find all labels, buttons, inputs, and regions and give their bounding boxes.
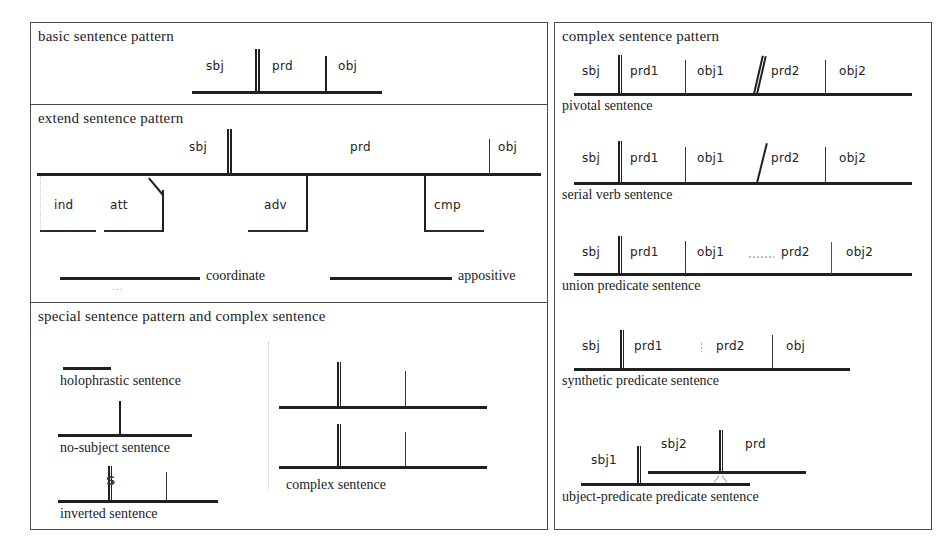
serial-sbj-prd1-separator <box>618 141 622 183</box>
complex-left-guide <box>268 342 270 490</box>
complex-clause1-baseline <box>279 406 487 409</box>
subjpred-outer-baseline <box>581 483 750 486</box>
pivotal-label-sbj: sbj <box>582 64 600 78</box>
basic-panel-title: basic sentence pattern <box>38 28 174 45</box>
pivotal-caption: pivotal sentence <box>562 98 653 114</box>
extend-coordinate-line <box>60 277 200 280</box>
union-label-obj1: obj1 <box>697 245 724 259</box>
inverted-s-marker: S <box>106 474 115 487</box>
pivotal-label-prd1: prd1 <box>630 64 659 78</box>
subjpred-sbj1-separator <box>637 446 641 484</box>
pivotal-sbj-prd1-separator <box>618 55 622 94</box>
extend-label-att: att <box>110 198 128 212</box>
synthetic-label-prd1: prd1 <box>634 339 663 353</box>
complex-sentence-caption: complex sentence <box>286 477 386 493</box>
subjpred-inner-baseline <box>648 471 806 474</box>
extend-cmp-bracket-vertical <box>424 174 426 232</box>
union-predicate-caption: union predicate sentence <box>562 278 700 294</box>
serial-label-prd2: prd2 <box>771 151 800 165</box>
pivotal-baseline <box>574 93 912 96</box>
serial-label-obj1: obj1 <box>697 151 724 165</box>
extend-att-riser-vertical <box>162 190 164 232</box>
serial-label-sbj: sbj <box>582 151 600 165</box>
extend-label-sbj: sbj <box>189 140 207 154</box>
serial-verb-caption: serial verb sentence <box>562 187 672 203</box>
subject-predicate-caption: ubject-predicate predicate sentence <box>562 489 759 505</box>
extend-panel-title: extend sentence pattern <box>38 110 183 127</box>
extend-sbj-prd-separator <box>227 129 232 174</box>
complex-clause1-double-rule <box>337 362 341 407</box>
serial-baseline <box>574 182 912 185</box>
extend-label-ind: ind <box>54 198 73 212</box>
extend-main-baseline <box>37 173 541 176</box>
extend-adv-bracket-vertical <box>306 174 308 232</box>
union-baseline <box>574 273 912 276</box>
extend-label-cmp: cmp <box>434 198 461 212</box>
pivotal-label-obj2: obj2 <box>839 64 866 78</box>
extend-appositive-line <box>330 277 452 280</box>
union-label-prd1: prd1 <box>630 245 659 259</box>
union-label-prd2: prd2 <box>781 245 810 259</box>
subjpred-link-caret-icon <box>714 475 727 483</box>
synthetic-label-prd2: prd2 <box>716 339 745 353</box>
subjpred-sbj2-prd-separator <box>719 430 723 472</box>
synthetic-prd2-obj-separator <box>772 335 773 369</box>
pivotal-label-obj1: obj1 <box>697 64 724 78</box>
union-obj1-prd2-dotted-separator <box>748 256 774 258</box>
divider-basic-extend <box>31 104 547 105</box>
pivotal-label-prd2: prd2 <box>771 64 800 78</box>
synthetic-label-obj: obj <box>786 339 805 353</box>
special-panel-title: special sentence pattern and complex sen… <box>38 308 326 325</box>
holophrastic-caption: holophrastic sentence <box>60 373 181 389</box>
basic-sbj-prd-separator <box>255 49 260 92</box>
no-subject-caption: no-subject sentence <box>60 440 170 456</box>
union-sbj-prd1-separator <box>618 236 622 274</box>
subjpred-label-prd: prd <box>745 437 766 451</box>
holophrastic-baseline <box>63 367 111 370</box>
extend-cmp-baseline <box>424 230 484 232</box>
extend-coordinate-caption: coordinate <box>206 268 265 284</box>
inverted-object-rule <box>166 472 167 501</box>
extend-prd-obj-separator <box>489 139 490 174</box>
serial-prd2-obj2-separator <box>825 147 826 183</box>
synthetic-prd1-prd2-dotted-separator <box>700 342 704 352</box>
synthetic-label-sbj: sbj <box>582 339 600 353</box>
basic-label-obj: obj <box>338 59 357 73</box>
extend-label-adv: adv <box>264 198 287 212</box>
extend-label-prd: prd <box>350 140 371 154</box>
extend-coordinate-ellipsis: ... <box>112 282 124 292</box>
subjpred-label-sbj1: sbj1 <box>591 453 617 467</box>
divider-extend-special <box>31 302 547 303</box>
pivotal-prd1-obj1-separator <box>685 60 686 94</box>
serial-label-prd1: prd1 <box>630 151 659 165</box>
union-prd1-obj1-separator <box>685 241 686 274</box>
diagram-canvas: basic sentence pattern sbj prd obj exten… <box>0 0 941 554</box>
complex-panel-title: complex sentence pattern <box>562 28 719 45</box>
no-subject-baseline <box>58 434 192 437</box>
complex-clause2-object-rule <box>405 432 406 467</box>
basic-label-sbj: sbj <box>206 59 224 73</box>
basic-prd-obj-separator <box>325 56 327 92</box>
inverted-caption: inverted sentence <box>60 506 158 522</box>
no-subject-vertical <box>119 401 121 435</box>
union-label-sbj: sbj <box>582 245 600 259</box>
union-prd2-obj2-separator <box>831 242 832 274</box>
synthetic-predicate-caption: synthetic predicate sentence <box>562 373 719 389</box>
extend-label-obj: obj <box>498 140 517 154</box>
basic-baseline <box>192 91 382 94</box>
union-label-obj2: obj2 <box>846 245 873 259</box>
extend-ind-baseline <box>40 230 96 232</box>
extend-adv-baseline <box>248 230 308 232</box>
basic-label-prd: prd <box>272 59 293 73</box>
extend-att-baseline <box>104 230 164 232</box>
subjpred-label-sbj2: sbj2 <box>661 437 687 451</box>
synthetic-baseline <box>574 368 850 371</box>
complex-clause2-double-rule <box>337 424 341 467</box>
extend-ind-left-guide <box>40 176 42 232</box>
extend-appositive-caption: appositive <box>458 268 516 284</box>
complex-clause2-baseline <box>279 466 487 469</box>
complex-clause1-object-rule <box>405 371 406 407</box>
pivotal-prd2-obj2-separator <box>825 60 826 94</box>
serial-prd1-obj1-separator <box>685 147 686 183</box>
inverted-baseline <box>58 500 218 503</box>
